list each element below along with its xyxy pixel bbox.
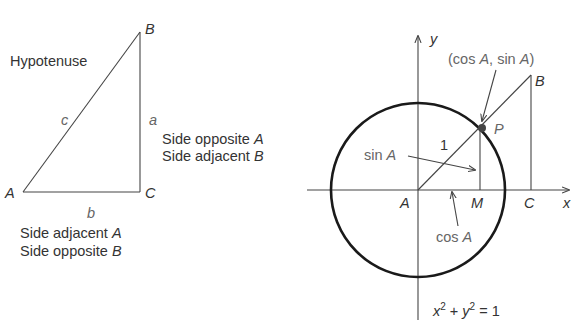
vertex-b-label: B: [145, 21, 155, 37]
unit-circle-figure: y x A M C B P 1 (cos A, sin A) sin A cos…: [307, 31, 571, 320]
trig-diagram: B A C c a b Hypotenuse Side opposite A S…: [0, 0, 581, 330]
line-AB: [418, 75, 531, 190]
x-axis-label: x: [562, 195, 571, 211]
side-b-description-2: Side opposite B: [20, 243, 122, 259]
point-c-label: C: [524, 195, 535, 211]
side-a-description-2: Side adjacent B: [162, 148, 264, 164]
y-axis-label: y: [429, 31, 438, 47]
point-p-dot: [478, 124, 486, 132]
side-b-label: b: [87, 205, 95, 221]
point-coordinates-label: (cos A, sin A): [448, 51, 534, 67]
side-a-label: a: [149, 112, 157, 128]
point-b-label: B: [535, 73, 545, 89]
point-m-label: M: [471, 195, 484, 211]
sin-a-label: sin A: [364, 147, 396, 163]
point-p-label: P: [494, 121, 504, 137]
vertex-a-label: A: [4, 185, 15, 201]
vertex-c-label: C: [145, 185, 156, 201]
radius-label: 1: [440, 137, 448, 153]
hypotenuse-label: Hypotenuse: [10, 53, 87, 69]
side-b-description-1: Side adjacent A: [20, 225, 122, 241]
circle-equation: x2 + y2 = 1: [432, 301, 500, 319]
cos-arrow: [452, 192, 458, 226]
cos-a-label: cos A: [436, 229, 472, 245]
origin-label: A: [399, 195, 410, 211]
right-triangle: B A C c a b Hypotenuse Side opposite A S…: [4, 21, 264, 259]
side-c-label: c: [61, 112, 69, 128]
side-a-description-1: Side opposite A: [162, 131, 264, 147]
